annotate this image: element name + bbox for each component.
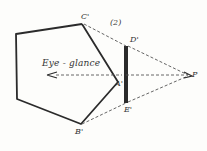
ray-C-D [84, 24, 126, 46]
label-B: B' [75, 128, 83, 136]
plane-bar-DE [124, 46, 128, 103]
label-P: P [192, 71, 197, 79]
eye-glance-label: Eye - glance [42, 59, 100, 68]
label-D: D' [130, 36, 139, 44]
label-E: E' [124, 106, 132, 114]
ray-D-P [128, 46, 188, 75]
figure-number: (2) [110, 19, 121, 27]
diagram-drawing [0, 0, 207, 151]
ray-E-P [128, 76, 188, 102]
label-C: C' [81, 13, 89, 21]
label-A: A' [115, 80, 123, 88]
diagram-canvas: C' (2) D' Eye - glance A' P E' B' [0, 0, 207, 151]
pentagon-shape [16, 24, 118, 124]
eye-glance-arrowhead-icon [47, 72, 57, 78]
ray-B-E [82, 103, 126, 124]
